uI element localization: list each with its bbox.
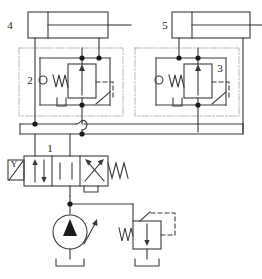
line-hop <box>76 120 87 130</box>
cylinder-4-port-lines <box>35 38 99 122</box>
hydraulic-schematic-canvas: 4 5 2 3 1 Y <box>0 0 262 279</box>
directional-valve-label: 1 <box>47 142 53 154</box>
valve-2-assembly <box>39 48 113 122</box>
solenoid-label: Y <box>11 159 18 169</box>
cylinder-5-port-lines <box>179 38 243 132</box>
schematic-lines <box>8 12 262 266</box>
relief-valve-assembly <box>119 212 175 266</box>
directional-control-valve <box>8 156 128 196</box>
pump-assembly <box>53 215 98 266</box>
cylinder-4-body <box>28 12 131 38</box>
cylinder-5-label: 5 <box>162 19 168 31</box>
relief-valve-pilot-line <box>150 213 175 235</box>
cylinder-5-body <box>172 12 262 38</box>
valve-3-assembly <box>155 48 229 132</box>
interconnect-bus <box>20 120 243 156</box>
valve-2-label: 2 <box>27 74 33 86</box>
cylinder-4-label: 4 <box>7 19 13 31</box>
schematic-drawing: 4 5 2 3 1 Y <box>0 0 262 279</box>
valve-3-label: 3 <box>217 62 223 74</box>
